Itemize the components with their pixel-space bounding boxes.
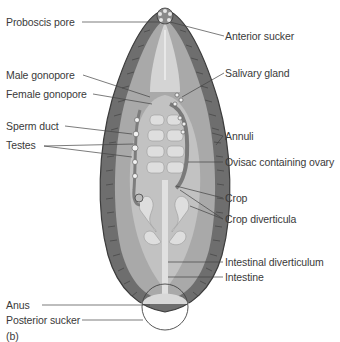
label-crop: Crop (225, 192, 247, 204)
label-salivary-gland: Salivary gland (225, 67, 290, 79)
label-proboscis-pore: Proboscis pore (6, 16, 75, 28)
epididymis-coil (135, 194, 143, 202)
label-anterior-sucker: Anterior sucker (225, 30, 294, 42)
label-annuli: Annuli (225, 130, 254, 142)
label-posterior-sucker: Posterior sucker (6, 314, 80, 326)
label-ovisac: Ovisac containing ovary (225, 156, 334, 168)
anterior-sucker-shape (157, 8, 173, 24)
intestine-shape (162, 180, 168, 295)
label-testes: Testes (6, 139, 36, 151)
label-intestinal-diverticulum: Intestinal diverticulum (225, 256, 324, 268)
label-sperm-duct: Sperm duct (6, 120, 59, 132)
label-male-gonopore: Male gonopore (6, 69, 75, 81)
label-crop-diverticula: Crop diverticula (225, 213, 296, 225)
panel-label: (b) (6, 330, 19, 342)
label-female-gonopore: Female gonopore (6, 88, 87, 100)
label-intestine: Intestine (225, 271, 264, 283)
label-anus: Anus (6, 299, 30, 311)
